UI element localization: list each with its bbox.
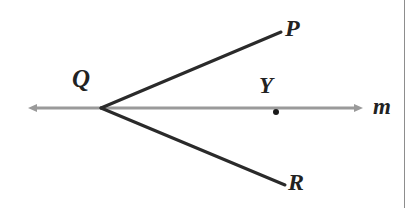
page-edge-rule	[404, 0, 405, 208]
point-label-y: Y	[259, 74, 273, 97]
point-y-dot	[273, 109, 279, 115]
ray-qp	[101, 32, 281, 108]
geometry-figure: Q P R Y m	[0, 0, 417, 208]
ray-qr	[101, 108, 285, 185]
point-label-r: R	[288, 170, 304, 194]
diagram-canvas	[0, 0, 417, 208]
point-label-q: Q	[72, 66, 90, 91]
line-label-m: m	[373, 95, 391, 118]
point-label-p: P	[285, 16, 300, 40]
